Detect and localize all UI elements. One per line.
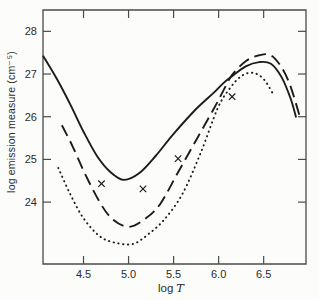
x-axis-label: logT	[158, 281, 184, 295]
y-tick-label: 25	[25, 153, 37, 165]
y-tick-label: 28	[25, 25, 37, 37]
y-tick-label: 26	[25, 111, 37, 123]
plot-area: 4.55.05.56.06.52425262728	[0, 0, 319, 300]
x-axis-label-variable: T	[176, 281, 184, 295]
x-marker	[175, 155, 181, 161]
x-tick-label: 6.5	[256, 268, 271, 280]
x-tick-label: 5.0	[121, 268, 136, 280]
x-axis-label-prefix: log	[158, 282, 173, 294]
y-tick-label: 27	[25, 68, 37, 80]
x-tick-label: 4.5	[76, 268, 91, 280]
x-marker	[98, 181, 104, 187]
curve-dotted	[58, 73, 272, 245]
y-axis-label: log emission measure (cm⁻⁵)	[5, 51, 17, 193]
x-tick-label: 5.5	[166, 268, 181, 280]
plot-frame	[43, 10, 306, 264]
figure-emission-measure-chart: 4.55.05.56.06.52425262728 log emission m…	[0, 0, 319, 300]
x-marker	[140, 186, 146, 192]
x-tick-label: 6.0	[211, 268, 226, 280]
x-marker	[229, 94, 235, 100]
y-tick-label: 24	[25, 196, 37, 208]
curve-solid	[43, 56, 296, 180]
